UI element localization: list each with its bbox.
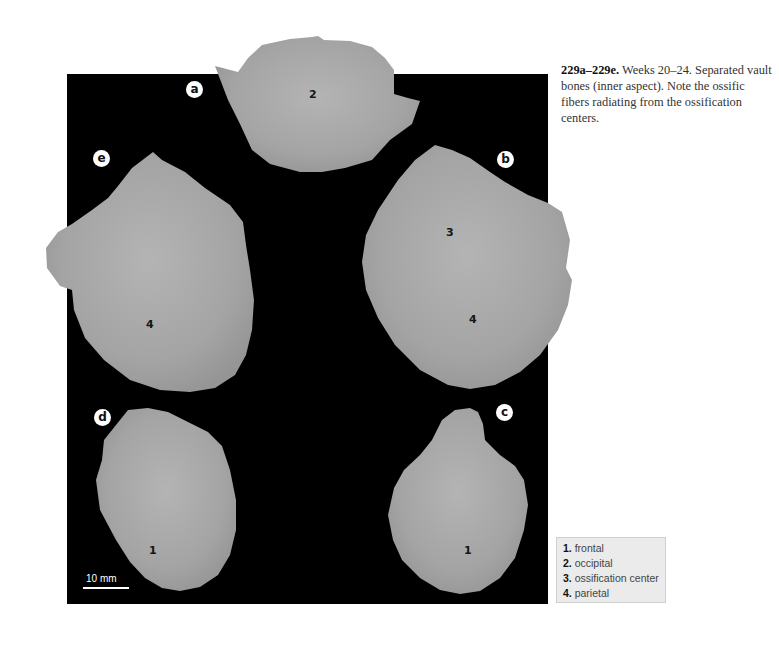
scale-bar: [83, 587, 129, 589]
bone-a-number: 2: [309, 88, 317, 101]
legend-label: ossification center: [575, 572, 659, 584]
bone-c-number: 1: [464, 544, 472, 557]
bone-d-number: 1: [149, 544, 157, 557]
legend-label: occipital: [575, 557, 613, 569]
legend-num: 3.: [563, 572, 572, 584]
legend: 1. frontal 2. occipital 3. ossification …: [556, 537, 666, 603]
bone-b-number-3: 3: [446, 226, 454, 239]
figure-caption: 229a–229e. Weeks 20–24. Separated vault …: [561, 62, 776, 126]
bone-e-number: 4: [146, 318, 154, 331]
panel-label-a: a: [186, 81, 203, 98]
panel-label-c: c: [496, 404, 513, 421]
legend-num: 2.: [563, 557, 572, 569]
legend-num: 1.: [563, 542, 572, 554]
legend-item: 1. frontal: [563, 541, 665, 556]
panel-label-b: b: [497, 151, 514, 168]
legend-num: 4.: [563, 587, 572, 599]
bone-b-number-4: 4: [469, 313, 477, 326]
figure-id: 229a–229e.: [561, 63, 619, 77]
legend-item: 3. ossification center: [563, 571, 665, 586]
panel-label-d: d: [94, 409, 111, 426]
scale-bar-label: 10 mm: [86, 573, 117, 584]
legend-label: frontal: [575, 542, 604, 554]
panel-label-e: e: [93, 150, 110, 167]
legend-item: 2. occipital: [563, 556, 665, 571]
legend-label: parietal: [575, 587, 609, 599]
legend-item: 4. parietal: [563, 586, 665, 601]
